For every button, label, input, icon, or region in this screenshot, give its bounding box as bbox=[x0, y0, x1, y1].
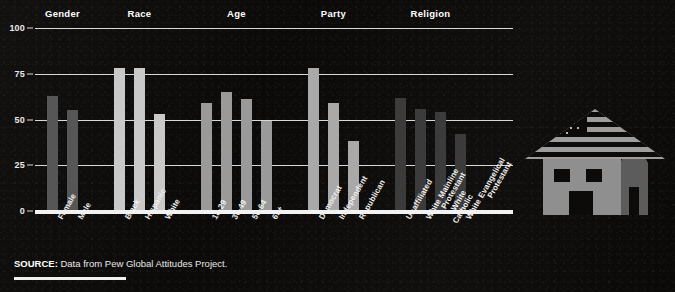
bar bbox=[201, 103, 212, 211]
source-text: Data from Pew Global Attitudes Project. bbox=[58, 258, 228, 269]
gridline bbox=[35, 28, 513, 29]
group-header: Age bbox=[227, 8, 246, 19]
bar bbox=[241, 99, 252, 211]
bar bbox=[134, 68, 145, 211]
bar bbox=[261, 121, 272, 211]
y-tick-mark bbox=[27, 165, 33, 166]
y-tick-mark bbox=[27, 119, 33, 120]
house-flag-svg bbox=[521, 103, 669, 219]
bar bbox=[47, 96, 58, 211]
house-with-american-flag-roof-icon bbox=[521, 103, 669, 219]
bar bbox=[308, 68, 319, 211]
y-axis: 0255075100 bbox=[0, 28, 33, 211]
gridline bbox=[35, 74, 513, 75]
y-tick-mark bbox=[27, 211, 33, 212]
bar bbox=[221, 92, 232, 211]
y-tick-mark bbox=[27, 28, 33, 29]
group-header: Gender bbox=[45, 8, 80, 19]
tower-door bbox=[629, 187, 639, 215]
bar bbox=[395, 98, 406, 211]
y-tick-mark bbox=[27, 73, 33, 74]
y-tick-label: 100 bbox=[9, 23, 25, 33]
source-underline-rule bbox=[14, 277, 126, 280]
chart-background: 0255075100 GenderRaceAgePartyReligion Fe… bbox=[0, 0, 675, 292]
group-header: Party bbox=[321, 8, 346, 19]
group-header: Race bbox=[128, 8, 152, 19]
house-window-left bbox=[554, 169, 570, 182]
y-tick-label: 25 bbox=[15, 160, 25, 170]
y-tick-label: 50 bbox=[15, 115, 25, 125]
house-window-right bbox=[586, 169, 602, 182]
source-note: SOURCE: Data from Pew Global Attitudes P… bbox=[14, 258, 227, 269]
y-tick-label: 0 bbox=[20, 206, 25, 216]
bar bbox=[114, 68, 125, 211]
flag-roof bbox=[521, 103, 669, 163]
y-tick-label: 75 bbox=[15, 69, 25, 79]
plot-area bbox=[35, 28, 513, 211]
group-header: Religion bbox=[411, 8, 451, 19]
source-label: SOURCE: bbox=[14, 258, 58, 269]
house-door bbox=[569, 191, 593, 215]
